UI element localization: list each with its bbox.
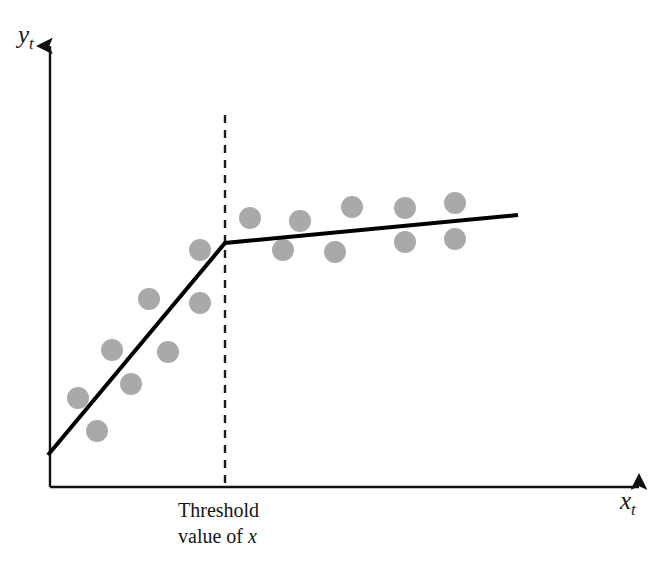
y-axis-label-main: y bbox=[18, 21, 29, 48]
y-axis-label-subscript: t bbox=[29, 34, 34, 53]
threshold-caption-prefix: value of bbox=[178, 525, 248, 547]
data-point bbox=[189, 239, 211, 261]
data-point bbox=[324, 241, 346, 263]
data-point bbox=[444, 228, 466, 250]
axis-group bbox=[50, 46, 639, 487]
data-point bbox=[272, 239, 294, 261]
data-point bbox=[138, 288, 160, 310]
data-point bbox=[394, 197, 416, 219]
x-axis-label-subscript: t bbox=[631, 500, 636, 519]
threshold-caption-variable: x bbox=[248, 525, 257, 547]
scatter-points-below-threshold bbox=[67, 239, 211, 442]
threshold-caption-line-2: value of x bbox=[178, 523, 259, 549]
threshold-caption-line-1: Threshold bbox=[178, 497, 259, 523]
scatter-points-above-threshold bbox=[239, 192, 466, 263]
data-point bbox=[120, 373, 142, 395]
plot-canvas bbox=[0, 0, 659, 567]
y-axis-label: yt bbox=[18, 22, 34, 52]
x-axis-label: xt bbox=[620, 488, 636, 518]
x-axis-label-main: x bbox=[620, 487, 631, 514]
data-point bbox=[444, 192, 466, 214]
data-point bbox=[101, 339, 123, 361]
data-point bbox=[289, 210, 311, 232]
data-point bbox=[394, 231, 416, 253]
data-point bbox=[341, 196, 363, 218]
threshold-regression-figure: yt xt Threshold value of x bbox=[0, 0, 659, 567]
threshold-caption: Threshold value of x bbox=[178, 497, 259, 550]
data-point bbox=[86, 420, 108, 442]
data-point bbox=[67, 387, 89, 409]
data-point bbox=[189, 292, 211, 314]
data-point bbox=[157, 341, 179, 363]
data-point bbox=[239, 207, 261, 229]
